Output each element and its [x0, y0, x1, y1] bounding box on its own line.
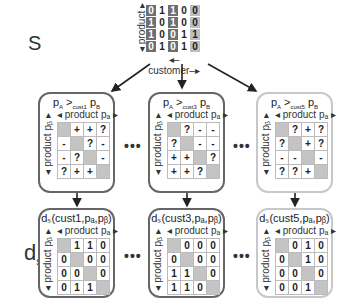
preference-grid: ?+??+?---??+ [275, 122, 328, 179]
grid-cell: 1 [168, 281, 181, 295]
grid-cell: 0 [97, 267, 110, 281]
grid-cell: + [168, 165, 181, 179]
distance-box-cust3: dₛ(cust3,pₐ,pᵦ) ◂ product pₐ ▸ ◂ product… [148, 208, 225, 298]
product-pa-axis: ◂ product pₐ ▸ [57, 109, 111, 120]
grid-cell: 0 [289, 281, 302, 295]
grid-cell: ? [276, 137, 289, 151]
grid-cell: - [289, 151, 302, 165]
diagonal-cell [168, 123, 181, 137]
distance-grid: 000000110110 [167, 238, 220, 295]
preference-box-cust5: pA >cust5 pB ◂ product pₐ ▸ ◂ product pᵦ… [256, 92, 333, 193]
product-pb-axis: ◂ product pᵦ ▸ [42, 117, 53, 175]
grid-cell: ? [181, 123, 194, 137]
product-pb-axis: ◂ product pᵦ ▸ [152, 233, 163, 291]
diagonal-cell [71, 253, 84, 267]
grid-cell: 0 [97, 239, 110, 253]
grid-cell: 0 [97, 253, 110, 267]
grid-cell: - [315, 151, 328, 165]
grid-cell: 0 [315, 267, 328, 281]
grid-cell: 0 [276, 267, 289, 281]
grid-cell: 1 [302, 239, 315, 253]
grid-cell: 0 [58, 281, 71, 295]
grid-cell: 0 [168, 253, 181, 267]
diagonal-cell [276, 239, 289, 253]
grid-cell: 0 [276, 253, 289, 267]
grid-cell: 0 [71, 267, 84, 281]
distance-title: dₛ(cust1,pₐ,pᵦ) [40, 212, 113, 225]
grid-cell: 1 [302, 281, 315, 295]
distance-box-cust5: dₛ(cust5,pₐ,pᵦ) ◂ product pₐ ▸ ◂ product… [256, 208, 333, 298]
grid-cell: + [181, 165, 194, 179]
product-pa-axis: ◂ product pₐ ▸ [57, 225, 111, 236]
grid-cell: 0 [315, 253, 328, 267]
grid-cell: 0 [194, 281, 207, 295]
ellipsis: ••• [233, 138, 251, 154]
grid-cell: ? [315, 137, 328, 151]
grid-cell: ? [315, 123, 328, 137]
preference-grid: ++?-?--?-?++ [57, 122, 110, 179]
grid-cell: 0 [276, 281, 289, 295]
grid-cell: 1 [71, 281, 84, 295]
grid-cell: 1 [181, 267, 194, 281]
diagonal-cell [84, 267, 97, 281]
grid-cell: 1 [84, 239, 97, 253]
product-pa-axis: ◂ product pₐ ▸ [275, 225, 329, 236]
grid-cell: - [194, 123, 207, 137]
grid-cell: ? [71, 151, 84, 165]
diagonal-cell [302, 151, 315, 165]
preference-box-cust1: pA >cust1 pB ◂ product pₐ ▸ ◂ product pᵦ… [38, 92, 115, 193]
grid-cell: ? [58, 165, 71, 179]
grid-cell: 0 [58, 253, 71, 267]
ellipsis: ••• [233, 248, 251, 264]
distance-title: dₛ(cust3,pₐ,pᵦ) [150, 212, 223, 225]
distance-box-cust1: dₛ(cust1,pₐ,pᵦ) ◂ product pₐ ▸ ◂ product… [38, 208, 115, 298]
diagonal-cell [315, 165, 328, 179]
grid-cell: 1 [84, 281, 97, 295]
grid-cell: + [71, 123, 84, 137]
product-pa-axis: ◂ product pₐ ▸ [275, 109, 329, 120]
grid-cell: - [58, 137, 71, 151]
grid-cell: 0 [58, 267, 71, 281]
distance-title: dₛ(cust5,pₐ,pᵦ) [258, 212, 331, 225]
distance-grid: 010010000001 [275, 238, 328, 295]
grid-cell: 0 [207, 239, 220, 253]
grid-cell: 0 [207, 267, 220, 281]
grid-cell: + [168, 151, 181, 165]
ellipsis: ••• [124, 138, 142, 154]
grid-cell: ? [168, 137, 181, 151]
diagonal-cell [207, 165, 220, 179]
diagonal-cell [276, 123, 289, 137]
diagonal-cell [181, 137, 194, 151]
grid-cell: - [97, 151, 110, 165]
grid-cell: - [194, 137, 207, 151]
product-pa-axis: ◂ product pₐ ▸ [167, 109, 221, 120]
arrow-to-cust5 [208, 64, 256, 91]
diagonal-cell [289, 253, 302, 267]
grid-cell: 0 [194, 253, 207, 267]
diagonal-cell [84, 151, 97, 165]
grid-cell: ? [194, 165, 207, 179]
grid-cell: ? [289, 165, 302, 179]
grid-cell: 0 [194, 239, 207, 253]
product-pa-axis: ◂ product pₐ ▸ [167, 225, 221, 236]
grid-cell: ? [289, 123, 302, 137]
grid-cell: - [97, 137, 110, 151]
grid-cell: - [207, 123, 220, 137]
distance-grid: 110000000011 [57, 238, 110, 295]
ellipsis: ••• [124, 248, 142, 264]
product-pb-axis: ◂ product pᵦ ▸ [42, 233, 53, 291]
diagonal-cell [194, 151, 207, 165]
diagonal-cell [97, 281, 110, 295]
grid-cell: + [302, 123, 315, 137]
diagonal-cell [207, 281, 220, 295]
diagonal-cell [168, 239, 181, 253]
grid-cell: 0 [289, 239, 302, 253]
diagonal-cell [302, 267, 315, 281]
diagonal-cell [194, 267, 207, 281]
grid-cell: 1 [168, 267, 181, 281]
grid-cell: + [71, 165, 84, 179]
grid-cell: 1 [181, 281, 194, 295]
grid-cell: + [84, 165, 97, 179]
grid-cell: 0 [289, 267, 302, 281]
diagonal-cell [289, 137, 302, 151]
